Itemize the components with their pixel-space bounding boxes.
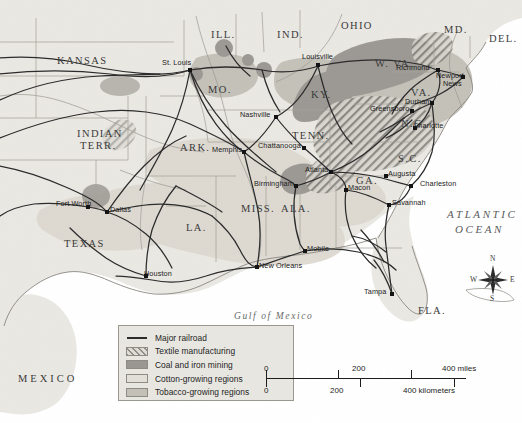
legend-swatch-railroad-line — [126, 333, 148, 342]
city-dot — [302, 146, 306, 150]
city-dot — [274, 115, 278, 119]
compass-west-label: W — [470, 275, 477, 284]
legend-swatch-tobacco — [126, 388, 148, 397]
legend-swatch-coal — [126, 360, 148, 369]
legend-swatch-textile — [126, 347, 148, 356]
scale-km-0: 0 — [264, 386, 268, 395]
compass-east-label: E — [510, 275, 515, 284]
city-dot — [430, 101, 434, 105]
scale-axis — [266, 378, 466, 379]
legend-label: Tobacco-growing regions — [155, 387, 249, 397]
city-dot — [294, 184, 298, 188]
legend-label: Textile manufacturing — [155, 346, 235, 356]
city-dot — [409, 184, 413, 188]
city-dot — [390, 292, 394, 296]
scale-bar: 0 200 400 miles 0 200 400 kilometers — [266, 364, 478, 398]
city-dot — [188, 68, 192, 72]
legend-swatch-cotton — [126, 374, 148, 383]
compass-south-label: S — [490, 294, 494, 303]
scale-miles-200: 200 — [352, 364, 365, 373]
compass-rose: N S W E — [470, 255, 516, 303]
city-dot — [303, 249, 307, 253]
legend-item-coal: Coal and iron mining — [126, 358, 287, 372]
city-dot — [105, 210, 109, 214]
legend-item-tobacco: Tobacco-growing regions — [126, 385, 287, 399]
legend-item-textile: Textile manufacturing — [126, 345, 287, 359]
city-dot — [255, 265, 259, 269]
legend-item-cotton: Cotton-growing regions — [126, 372, 287, 386]
scale-km-200: 200 — [330, 386, 343, 395]
city-dot — [413, 126, 417, 130]
scale-tick — [411, 370, 412, 379]
city-dot — [384, 174, 388, 178]
city-dot — [461, 75, 465, 79]
map-figure: St. LouisLouisvilleRichmondNewportNewsGr… — [0, 0, 522, 423]
city-dot — [436, 68, 440, 72]
city-dot — [329, 170, 333, 174]
city-dot — [316, 63, 320, 67]
scale-km-400: 400 kilometers — [403, 386, 455, 395]
scale-miles-0: 0 — [264, 364, 268, 373]
compass-north-label: N — [490, 254, 495, 263]
legend-label: Coal and iron mining — [155, 360, 233, 370]
city-dot — [242, 150, 246, 154]
scale-tick — [338, 370, 339, 379]
city-dot — [410, 109, 414, 113]
scale-tick — [360, 378, 361, 387]
city-dot — [344, 188, 348, 192]
city-dot — [387, 203, 391, 207]
city-dot — [86, 205, 90, 209]
legend-label: Major railroad — [155, 333, 207, 343]
legend-item-railroad: Major railroad — [126, 331, 287, 345]
scale-miles-400: 400 miles — [442, 364, 476, 373]
city-dot — [144, 274, 148, 278]
legend-label: Cotton-growing regions — [155, 374, 243, 384]
